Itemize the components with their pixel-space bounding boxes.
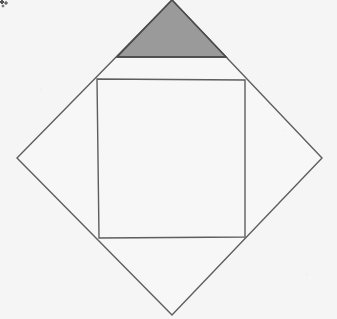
geometric-figure [0,0,337,319]
figure-canvas [0,0,337,319]
